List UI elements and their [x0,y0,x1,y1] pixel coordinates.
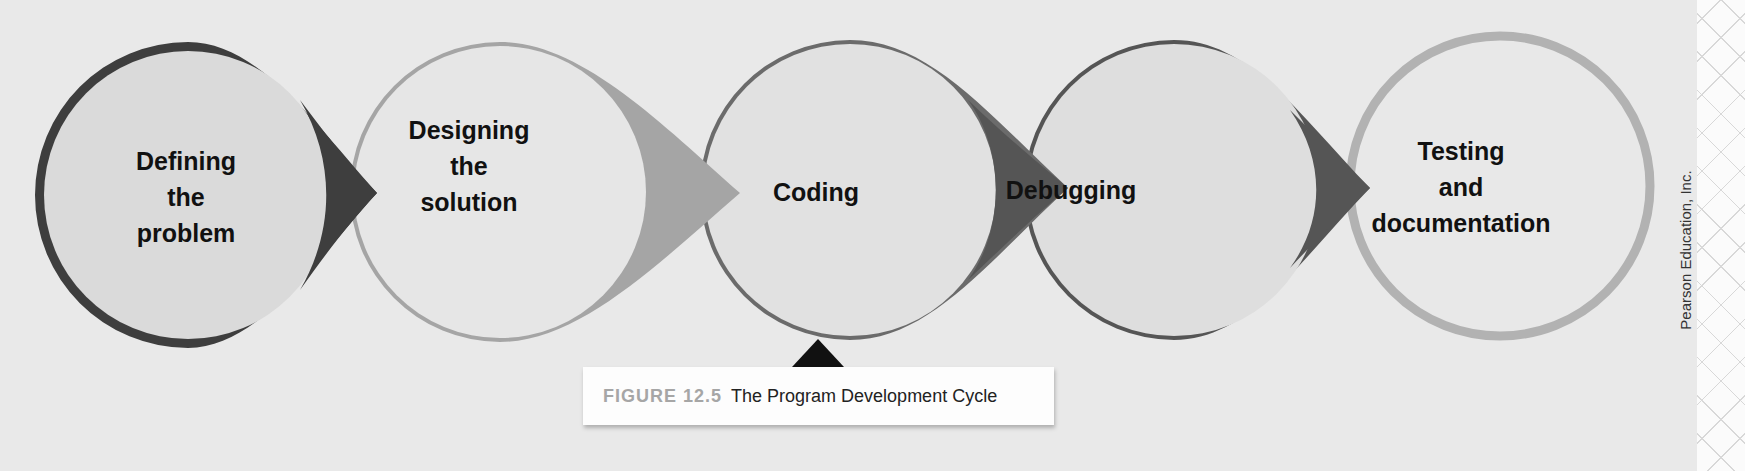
step-label-testing-documentation: Testing and documentation [1371,133,1550,241]
figure-number: FIGURE 12.5 [603,386,722,407]
figure-caption: FIGURE 12.5 The Program Development Cycl… [583,367,1054,425]
step-label-designing-solution: Designing the solution [409,112,530,220]
step-label-defining-problem: Defining the problem [136,143,236,251]
step-label-coding: Coding [773,174,859,210]
figure-title: The Program Development Cycle [731,386,997,407]
caption-pointer-icon [792,339,844,367]
image-credit: Pearson Education, Inc. [1677,170,1694,329]
step-label-debugging: Debugging [1006,172,1137,208]
